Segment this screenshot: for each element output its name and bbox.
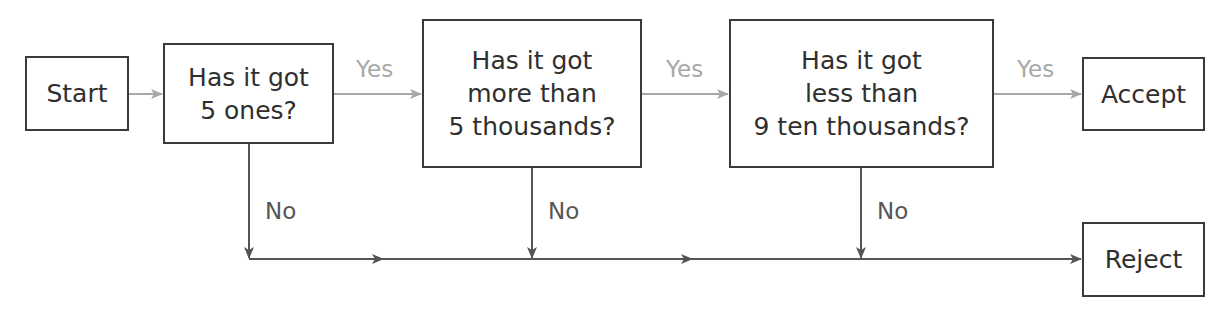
reject-label: Reject — [1105, 243, 1183, 276]
q2-line-1: Has it got — [472, 44, 593, 77]
q2-line-3: 5 thousands? — [449, 110, 616, 143]
q3-yes-label: Yes — [1017, 56, 1054, 82]
q1-line-2: 5 ones? — [200, 94, 297, 127]
q3-line-2: less than — [805, 77, 918, 110]
q2-line-2: more than — [467, 77, 597, 110]
q1-yes-label: Yes — [356, 56, 393, 82]
q2-yes-label: Yes — [666, 56, 703, 82]
start-node: Start — [25, 56, 129, 131]
accept-node: Accept — [1082, 57, 1205, 131]
start-label: Start — [46, 77, 107, 110]
q3-line-3: 9 ten thousands? — [754, 110, 970, 143]
reject-node: Reject — [1082, 222, 1205, 297]
decision-less-than-9-ten-thousands: Has it got less than 9 ten thousands? — [729, 19, 994, 168]
q1-no-label: No — [265, 198, 296, 224]
q3-no-label: No — [877, 198, 908, 224]
decision-5-ones: Has it got 5 ones? — [163, 43, 334, 144]
q3-line-1: Has it got — [801, 44, 922, 77]
decision-more-than-5-thousands: Has it got more than 5 thousands? — [422, 19, 642, 168]
q2-no-label: No — [548, 198, 579, 224]
accept-label: Accept — [1101, 78, 1186, 111]
q1-line-1: Has it got — [188, 61, 309, 94]
